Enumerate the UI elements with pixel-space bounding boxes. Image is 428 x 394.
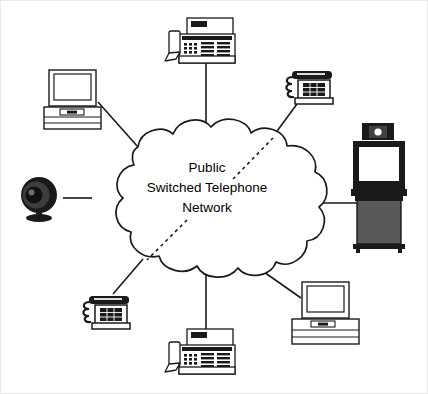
office-phone-top-keypad <box>184 43 197 54</box>
link-desk-phone-lower-left <box>113 259 143 294</box>
desk-phone-lower-left-keypad <box>100 308 122 321</box>
webcam-lens-glint <box>29 190 35 196</box>
office-phone-top-base <box>179 56 235 63</box>
public-switched-telephone-network-cloud: Public Switched Telephone Network <box>116 119 327 277</box>
office-phone-top-handset-grip <box>165 52 180 61</box>
desktop-lower-right-screen <box>307 286 344 312</box>
videoconference-cart-cabinet-top-trim <box>355 196 403 201</box>
cloud-shape <box>116 119 327 277</box>
network-diagram: Public Switched Telephone Network <box>1 1 428 394</box>
webcam-left[interactable] <box>21 177 57 222</box>
desk-phone-lower-left-handset-highlight <box>94 298 122 300</box>
office-phone-top-handset <box>169 31 180 55</box>
videoconference-unit-right[interactable] <box>351 123 407 253</box>
desk-phone-upper-right-handset-highlight <box>297 73 325 75</box>
desktop-lower-right-drive-slot <box>318 323 328 326</box>
desk-phone-upper-right-base <box>295 98 333 104</box>
videoconference-cart-cabinet <box>357 196 401 244</box>
videoconference-cart-leg-right <box>398 249 402 253</box>
desk-phone-lower-left-cord <box>83 302 91 322</box>
office-phone-bottom-handset <box>169 342 180 366</box>
videoconference-camera-lens <box>374 128 381 135</box>
videoconference-cart-base-bar <box>353 244 405 249</box>
cloud-label-line-2: Switched Telephone <box>147 180 268 195</box>
webcam-stand-base <box>26 214 52 222</box>
webcam-lens <box>26 187 43 204</box>
desktop-computer-upper-left[interactable] <box>44 70 101 129</box>
desktop-upper-left-screen <box>54 74 91 100</box>
office-phone-bottom-handset-grip <box>165 363 180 372</box>
desk-phone-upper-right-cord <box>286 77 294 97</box>
office-phone-top[interactable] <box>165 18 235 63</box>
link-desktop-upper-left <box>98 102 138 147</box>
office-phone-bottom-display-screen <box>191 332 207 338</box>
office-phone-top-display-screen <box>191 21 207 27</box>
office-phone-bottom-header-bar <box>182 347 232 351</box>
desktop-upper-left-drive-slot <box>67 111 77 114</box>
office-phone-bottom[interactable] <box>165 329 235 374</box>
cloud-label-line-3: Network <box>182 200 232 215</box>
office-phone-bottom-keypad <box>184 354 197 365</box>
desk-phone-upper-right-keypad <box>303 83 325 96</box>
desk-phone-lower-left-base <box>92 323 130 329</box>
desktop-computer-lower-right[interactable] <box>292 282 359 344</box>
videoconference-cart-leg-left <box>356 249 360 253</box>
videoconference-monitor-shelf <box>351 189 407 196</box>
cloud-label-line-1: Public <box>189 160 226 175</box>
office-phone-bottom-base <box>179 367 235 374</box>
videoconference-monitor-screen <box>359 147 399 181</box>
desk-phone-upper-right[interactable] <box>286 71 333 104</box>
diagram-canvas: Public Switched Telephone Network <box>0 0 428 394</box>
desk-phone-lower-left[interactable] <box>83 296 130 329</box>
office-phone-top-header-bar <box>182 36 232 40</box>
